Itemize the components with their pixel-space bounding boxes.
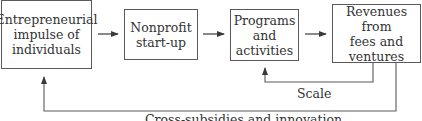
- edge-label-scale: Scale: [297, 86, 331, 101]
- node-label: Entrepreneurial impulse of individuals: [0, 12, 97, 57]
- node-entrepreneurial-impulse: Entrepreneurial impulse of individuals: [1, 0, 92, 69]
- node-label: Programs and activities: [234, 13, 296, 58]
- node-programs-activities: Programs and activities: [230, 9, 299, 61]
- arrow-scale-loop: [265, 62, 373, 82]
- node-nonprofit-startup: Nonprofit start-up: [124, 9, 198, 60]
- edge-label-cross-subsidies: Cross-subsidies and innovation: [145, 112, 342, 121]
- arrow-cross-subsidy-loop: [44, 62, 396, 111]
- node-label: Revenues from fees and ventures: [333, 4, 420, 64]
- node-revenues: Revenues from fees and ventures: [332, 4, 421, 63]
- node-label: Nonprofit start-up: [130, 20, 191, 50]
